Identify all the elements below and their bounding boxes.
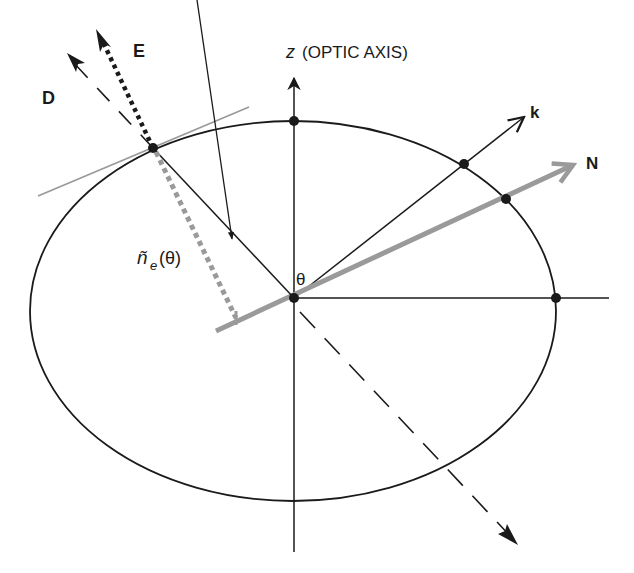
svg-text:e: e	[150, 258, 157, 273]
d-vector	[73, 62, 153, 148]
label-ne-theta: ñ e (θ)	[137, 247, 181, 273]
point-tangent	[148, 143, 158, 153]
n-vector	[216, 165, 573, 331]
label-z: z	[285, 42, 295, 62]
point-center	[289, 293, 299, 303]
label-E: E	[133, 41, 145, 61]
ne-dotted-perpendicular	[156, 152, 236, 318]
label-theta: θ	[296, 270, 305, 289]
svg-text:(θ): (θ)	[159, 248, 181, 268]
e-vector	[103, 42, 153, 148]
svg-text:ñ: ñ	[137, 247, 148, 268]
point-n-intersection	[501, 194, 511, 204]
index-ellipse-diagram: z (OPTIC AXIS) E D k N θ ñ e (θ)	[0, 0, 634, 573]
ne-dimension-arrow	[197, 0, 232, 239]
label-optic-axis: (OPTIC AXIS)	[302, 43, 408, 62]
lower-dashed-direction	[300, 312, 512, 538]
label-D: D	[42, 88, 55, 108]
point-right	[551, 293, 561, 303]
index-ellipse	[30, 121, 556, 501]
tangent-line	[38, 107, 249, 196]
point-k-intersection	[459, 159, 469, 169]
d-arrow-head-icon	[67, 53, 85, 72]
k-vector	[294, 117, 524, 298]
label-k: k	[530, 103, 540, 122]
e-arrow-head-icon	[96, 29, 111, 52]
point-top	[289, 116, 299, 126]
label-N: N	[586, 154, 598, 173]
radius-to-tangent-point	[153, 148, 294, 298]
